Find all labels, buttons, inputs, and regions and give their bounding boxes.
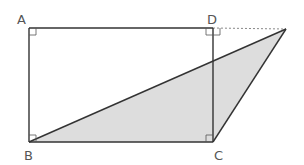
right-angle-mark-a — [29, 28, 36, 35]
geometry-diagram: A D B C — [0, 0, 304, 165]
label-a: A — [17, 12, 26, 27]
dotted-extension-de — [213, 28, 286, 29]
label-c: C — [214, 148, 223, 163]
label-d: D — [207, 12, 217, 27]
label-b: B — [24, 148, 33, 163]
